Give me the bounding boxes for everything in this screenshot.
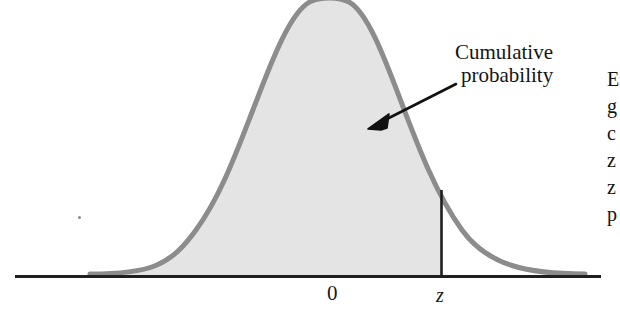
annotation-label-line2: probability xyxy=(461,65,553,86)
clipped-margin-line-6: p xyxy=(607,201,620,228)
clipped-margin-line-4: z xyxy=(607,147,620,174)
clipped-margin-line-1: E xyxy=(607,66,620,93)
clipped-margin-text-block: E g c z z p xyxy=(607,66,620,228)
normal-distribution-figure: Cumulative probability 0 z E g c z z p xyxy=(0,0,620,314)
annotation-label-line1: Cumulative xyxy=(455,42,553,63)
axis-tick-label-zero: 0 xyxy=(327,283,338,304)
clipped-margin-line-2: g xyxy=(607,93,620,120)
axis-tick-label-z: z xyxy=(436,285,444,305)
clipped-margin-line-3: c xyxy=(607,120,620,147)
clipped-margin-line-5: z xyxy=(607,174,620,201)
scan-artifact-speck xyxy=(78,216,81,219)
